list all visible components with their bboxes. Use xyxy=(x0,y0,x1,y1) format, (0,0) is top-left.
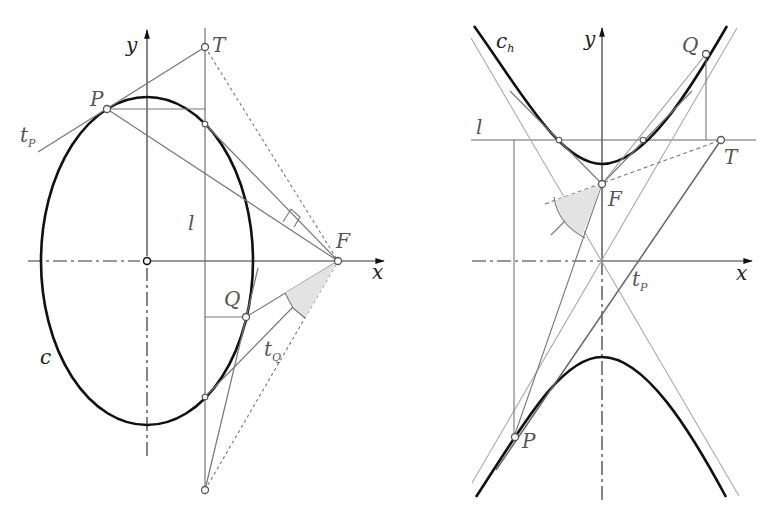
label-l-right: l xyxy=(476,115,482,139)
label-tQ: tQ xyxy=(264,337,281,364)
point-F-right xyxy=(599,181,606,188)
label-T: T xyxy=(212,33,227,57)
left-panel: y T P tP l F x Q tQ c xyxy=(20,28,384,494)
label-y-right: y xyxy=(583,27,596,51)
point-T xyxy=(202,44,209,51)
label-l: l xyxy=(188,211,194,235)
point-right-l xyxy=(640,137,646,143)
point-T-right xyxy=(718,137,725,144)
upper-l-to-f xyxy=(205,124,338,261)
angle-shade xyxy=(285,261,338,318)
point-lower-l xyxy=(202,394,208,400)
label-ch: ch xyxy=(496,29,514,55)
label-c: c xyxy=(40,345,51,369)
label-tP-right: tP xyxy=(632,267,648,294)
p-to-f xyxy=(514,184,602,437)
f-to-t-dashed xyxy=(545,140,721,204)
label-T-right: T xyxy=(724,145,739,169)
point-Q xyxy=(243,314,250,321)
label-F: F xyxy=(335,229,351,253)
tangent-tP xyxy=(38,47,205,152)
diagram-canvas: y T P tP l F x Q tQ c xyxy=(0,0,774,510)
left-tangent-segment xyxy=(510,91,602,184)
point-bottom xyxy=(202,487,209,494)
point-upper-l xyxy=(202,121,208,127)
point-left-l xyxy=(556,137,562,143)
label-y: y xyxy=(125,33,138,57)
point-Q-right xyxy=(703,51,710,58)
asymptote-2 xyxy=(472,28,737,483)
label-F-right: F xyxy=(607,187,623,211)
t-to-f-dashed xyxy=(205,47,338,261)
label-Q: Q xyxy=(224,287,240,311)
point-F xyxy=(335,258,342,265)
label-P: P xyxy=(89,87,104,111)
right-angle-upper xyxy=(283,209,300,227)
asymptote-1 xyxy=(471,38,739,496)
label-x: x xyxy=(372,260,383,284)
point-P-right xyxy=(512,434,519,441)
right-panel: ch y Q l T F x tP P xyxy=(471,26,756,500)
label-Q-right: Q xyxy=(682,33,698,57)
label-x-right: x xyxy=(736,261,747,285)
label-tP: tP xyxy=(20,123,36,150)
label-P-right: P xyxy=(521,429,536,453)
right-tangent-segment xyxy=(602,91,692,184)
point-center xyxy=(144,258,151,265)
p-to-f xyxy=(107,109,338,261)
point-P xyxy=(104,106,111,113)
